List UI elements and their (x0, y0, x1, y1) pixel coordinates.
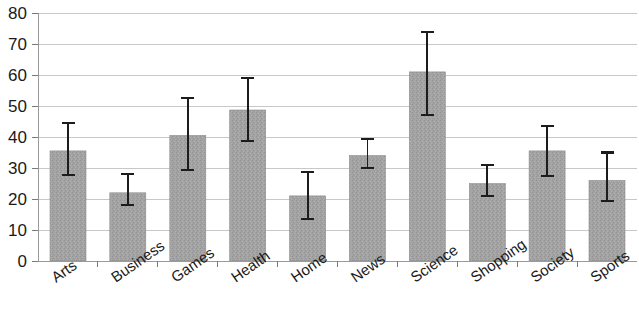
y-tick-label: 10 (8, 221, 27, 240)
y-tick-label: 40 (8, 128, 27, 147)
y-tick-label: 30 (8, 159, 27, 178)
y-tick-label: 70 (8, 35, 27, 54)
y-tick-label: 60 (8, 66, 27, 85)
chart-canvas: 01020304050607080 ArtsBusinessGamesHealt… (0, 0, 639, 329)
y-tick-label: 80 (8, 4, 27, 23)
bars (50, 72, 625, 261)
y-axis-tick-labels: 01020304050607080 (8, 4, 27, 271)
y-tick-label: 50 (8, 97, 27, 116)
y-tick-label: 20 (8, 190, 27, 209)
y-tick-label: 0 (18, 252, 27, 271)
bar-chart-figure: 01020304050607080 ArtsBusinessGamesHealt… (0, 0, 639, 329)
y-axis-ticks (32, 13, 38, 261)
bar (349, 156, 385, 261)
